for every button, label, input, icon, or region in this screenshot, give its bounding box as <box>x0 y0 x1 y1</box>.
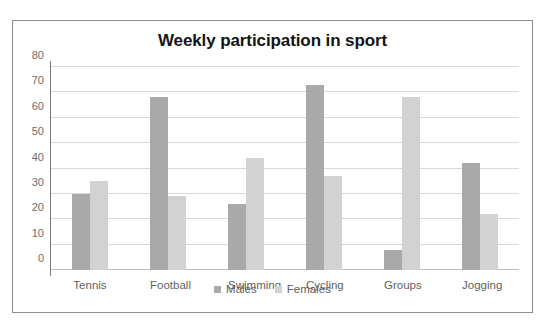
scan-artifact-top-text: Write a short re... <box>14 0 107 6</box>
bar-males-swimming[interactable] <box>228 204 246 270</box>
legend-label: Females <box>287 283 331 295</box>
bar-group: Jogging <box>462 67 498 270</box>
bar-group: Tennis <box>72 67 108 270</box>
bar-males-cycling[interactable] <box>306 85 324 270</box>
bar-males-tennis[interactable] <box>72 194 90 270</box>
gridline <box>51 117 519 118</box>
bar-females-jogging[interactable] <box>480 214 498 270</box>
y-axis-tick-label: 50 <box>32 125 44 137</box>
y-axis-tick-label: 0 <box>38 252 44 264</box>
legend-item-males[interactable]: Males <box>214 283 257 295</box>
bar-group: Groups <box>384 67 420 270</box>
y-axis-tick-label: 20 <box>32 201 44 213</box>
bar-females-groups[interactable] <box>402 97 420 270</box>
chart-frame: Weekly participation in sport 0102030405… <box>12 20 533 313</box>
bar-females-cycling[interactable] <box>324 176 342 270</box>
bar-males-football[interactable] <box>150 97 168 270</box>
gridline <box>51 66 519 67</box>
bar-group: Football <box>150 67 186 270</box>
legend-item-females[interactable]: Females <box>275 283 331 295</box>
bar-males-jogging[interactable] <box>462 163 480 270</box>
y-axis-tick-label: 30 <box>32 176 44 188</box>
y-axis-tick-label: 60 <box>32 100 44 112</box>
gridline <box>51 168 519 169</box>
bar-group: Swimming <box>228 67 264 270</box>
y-axis-tick-label: 80 <box>32 49 44 61</box>
gridline <box>51 244 519 245</box>
bar-females-football[interactable] <box>168 196 186 270</box>
bar-females-swimming[interactable] <box>246 158 264 270</box>
chart-title: Weekly participation in sport <box>13 31 532 51</box>
bar-males-groups[interactable] <box>384 250 402 270</box>
plot-area: 01020304050607080 TennisFootballSwimming… <box>51 67 519 270</box>
gridline <box>51 218 519 219</box>
y-axis-tick-label: 40 <box>32 151 44 163</box>
gridline <box>51 142 519 143</box>
legend-label: Males <box>226 283 257 295</box>
y-axis-tick-label: 10 <box>32 227 44 239</box>
y-axis-tick-label: 70 <box>32 74 44 86</box>
gridline <box>51 269 519 270</box>
legend-swatch-females <box>275 286 282 293</box>
chart-legend: MalesFemales <box>13 283 532 295</box>
bar-females-tennis[interactable] <box>90 181 108 270</box>
legend-swatch-males <box>214 286 221 293</box>
gridline <box>51 193 519 194</box>
gridline <box>51 91 519 92</box>
bar-group: Cycling <box>306 67 342 270</box>
